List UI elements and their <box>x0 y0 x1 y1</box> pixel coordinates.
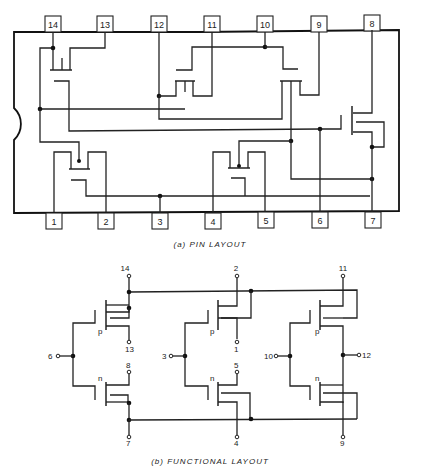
pin-13-label: 13 <box>100 20 110 30</box>
pin-11-label: 11 <box>207 20 216 30</box>
pin-7-label: 7 <box>370 216 375 226</box>
n-label-1: n <box>98 374 102 383</box>
vdd-11-label: 11 <box>339 264 348 273</box>
pin-10-label: 10 <box>260 20 270 30</box>
p-label-1: p <box>98 327 103 336</box>
pin-layout-wiring <box>0 30 384 213</box>
in-3-label: 3 <box>162 352 167 361</box>
n-label-3: n <box>315 374 319 383</box>
pin-5-label: 5 <box>263 216 268 226</box>
functional-layout-caption: (b) FUNCTIONAL LAYOUT <box>151 457 269 466</box>
pin-layout-caption: (a) PIN LAYOUT <box>174 240 247 249</box>
p-label-3: p <box>315 327 320 336</box>
pin-4-label: 4 <box>210 217 215 227</box>
out-13-label: 13 <box>125 345 134 354</box>
in-10-label: 10 <box>264 352 273 361</box>
inverter-3: p 10 12 n 9 <box>264 300 371 448</box>
pin-9-label: 9 <box>316 20 321 30</box>
inverter-1: 13 p 6 8 n 7 <box>48 300 134 448</box>
vss-9-label: 9 <box>340 439 345 448</box>
pin-1-label: 1 <box>51 217 56 227</box>
pin-14-label: 14 <box>48 20 58 30</box>
out-1-label: 1 <box>234 345 239 354</box>
pin-6-label: 6 <box>317 216 322 226</box>
vdd-14-label: 14 <box>121 264 130 273</box>
in-6-label: 6 <box>48 352 53 361</box>
out-12-label: 12 <box>362 351 371 360</box>
n-label-2: n <box>210 374 214 383</box>
vdd-2-label: 2 <box>234 264 239 273</box>
pin-2-label: 2 <box>103 217 108 227</box>
cmos-pair-diagram: 14 13 12 11 10 9 8 1 2 3 4 5 <box>0 0 421 468</box>
vss-4-label: 4 <box>234 439 239 448</box>
pin-12-label: 12 <box>154 20 164 30</box>
top-pins: 14 13 12 11 10 9 8 <box>45 15 380 32</box>
bottom-pins: 1 2 3 4 5 6 7 <box>46 212 381 229</box>
out-5-label: 5 <box>234 361 239 370</box>
pin-3-label: 3 <box>157 217 162 227</box>
pin-layout: 14 13 12 11 10 9 8 1 2 3 4 5 <box>0 15 399 249</box>
out-8-label: 8 <box>126 361 131 370</box>
inverter-2: 1 p 3 5 n 4 <box>162 300 250 448</box>
functional-layout: 14 2 11 13 p 6 8 n <box>48 264 371 466</box>
vss-7-label: 7 <box>126 439 131 448</box>
p-label-2: p <box>210 327 215 336</box>
pin-8-label: 8 <box>369 19 374 29</box>
